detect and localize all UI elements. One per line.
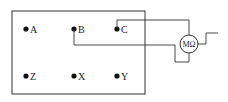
terminal-label: Y [121,71,128,82]
terminal-label: X [78,71,86,82]
circuit-diagram: A B C Z X Y MΩ [0,0,228,102]
terminal-B: B [71,24,85,35]
meter-label: MΩ [182,40,195,49]
terminal-dot-icon [23,73,28,78]
megohmmeter: MΩ [180,35,198,53]
terminal-label: B [78,24,85,35]
wire-c-to-meter [117,20,189,35]
terminal-label: A [30,24,38,35]
terminal-dot-icon [71,73,76,78]
terminal-C: C [114,24,128,35]
terminal-Z: Z [23,71,36,82]
terminal-label: C [121,24,128,35]
terminal-X: X [71,71,86,82]
terminal-A: A [23,24,38,35]
terminal-dot-icon [114,73,119,78]
terminal-Y: Y [114,71,128,82]
terminal-label: Z [30,71,36,82]
wire-meter-external-lead [198,33,218,44]
wire-b-to-meter [74,29,189,62]
terminal-dot-icon [23,26,28,31]
